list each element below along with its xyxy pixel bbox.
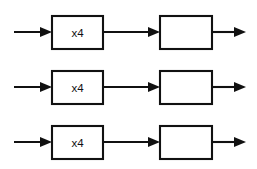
channel-3-output-arrowhead bbox=[234, 137, 246, 147]
channel-1-second-block bbox=[160, 16, 212, 49]
channel-1-output-arrow bbox=[212, 27, 246, 37]
channel-2-link-arrowhead bbox=[148, 82, 160, 92]
channel-2-first-block-label: x4 bbox=[71, 82, 84, 94]
channel-1-link-arrowhead bbox=[148, 27, 160, 37]
channel-3-input-arrow bbox=[14, 137, 52, 147]
channel-1-input-arrow bbox=[14, 27, 52, 37]
channel-3-group: x4 bbox=[14, 126, 246, 159]
channel-3-input-arrowhead bbox=[40, 137, 52, 147]
channel-2-input-arrowhead bbox=[40, 82, 52, 92]
diagram-svg: x4 x4 bbox=[0, 0, 257, 169]
channel-1-first-block-label: x4 bbox=[71, 27, 84, 39]
channel-1-input-arrowhead bbox=[40, 27, 52, 37]
channel-2-second-block-rect bbox=[160, 71, 212, 104]
channel-2-second-block bbox=[160, 71, 212, 104]
channel-2-output-arrow bbox=[212, 82, 246, 92]
channel-1-output-arrowhead bbox=[234, 27, 246, 37]
channel-3-link-arrow bbox=[103, 137, 160, 147]
channel-3-second-block-rect bbox=[160, 126, 212, 159]
channel-3-first-block-label: x4 bbox=[71, 137, 84, 149]
channel-3-output-arrow bbox=[212, 137, 246, 147]
channel-1-group: x4 bbox=[14, 16, 246, 49]
channel-1-second-block-rect bbox=[160, 16, 212, 49]
channel-3-first-block: x4 bbox=[52, 126, 103, 159]
block-diagram-canvas: x4 x4 bbox=[0, 0, 257, 169]
channel-2-link-arrow bbox=[103, 82, 160, 92]
channel-2-output-arrowhead bbox=[234, 82, 246, 92]
channel-2-first-block: x4 bbox=[52, 71, 103, 104]
channel-1-first-block: x4 bbox=[52, 16, 103, 49]
channel-3-second-block bbox=[160, 126, 212, 159]
channel-1-link-arrow bbox=[103, 27, 160, 37]
channel-2-group: x4 bbox=[14, 71, 246, 104]
channel-2-input-arrow bbox=[14, 82, 52, 92]
channel-3-link-arrowhead bbox=[148, 137, 160, 147]
